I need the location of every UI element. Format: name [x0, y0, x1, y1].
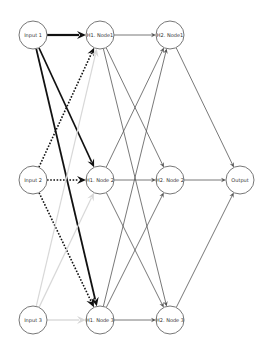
node-h1n3: H1. Node 3: [86, 306, 114, 334]
edge-h2n1-to-out: [176, 48, 234, 168]
edge-line: [39, 53, 92, 167]
arrowhead-icon: [77, 176, 86, 184]
edge-line: [106, 193, 162, 305]
node-h2n3: H2. Node 3: [156, 306, 184, 334]
node-h2n2: H2. Node 2: [156, 166, 184, 194]
edge-in3-to-h1n3: [47, 316, 86, 324]
edges-layer: [36, 31, 234, 324]
edge-h2n2-to-out: [184, 178, 226, 183]
node-in2: Input 2: [19, 166, 47, 194]
node-label: H1. Node1: [87, 32, 113, 38]
node-label: H2. Node1: [157, 32, 183, 38]
edge-line: [106, 50, 163, 167]
edge-in3-to-h1n2: [39, 193, 94, 308]
edge-line: [106, 195, 162, 307]
node-label: H1. Node 3: [86, 317, 114, 323]
node-label: Input 2: [24, 177, 42, 184]
edge-line: [106, 48, 163, 165]
node-out: Output: [226, 166, 254, 194]
edge-line: [176, 48, 233, 165]
node-h1n2: H1. Node 2: [86, 166, 114, 194]
node-in1: Input 1: [19, 21, 47, 49]
node-label: H1. Node 2: [86, 177, 114, 183]
edge-line: [176, 195, 232, 307]
node-label: Output: [231, 177, 248, 184]
arrowhead-icon: [86, 298, 94, 308]
edge-in1-to-h1n1: [47, 31, 86, 39]
node-in3: Input 3: [19, 306, 47, 334]
node-label: Input 1: [24, 32, 42, 39]
neural-network-diagram: Input 1Input 2Input 3H1. Node1H1. Node 2…: [0, 0, 269, 361]
node-label: Input 3: [24, 317, 42, 324]
edge-h1n3-to-h2n3: [114, 318, 156, 323]
edge-h1n1-to-h2n1: [114, 33, 156, 38]
node-h1n1: H1. Node1: [86, 21, 114, 49]
node-label: H2. Node 2: [156, 177, 184, 183]
edge-h2n3-to-out: [176, 193, 233, 308]
arrowhead-icon: [88, 48, 95, 57]
nodes-layer: Input 1Input 2Input 3H1. Node1H1. Node 2…: [19, 21, 254, 334]
node-h2n1: H2. Node1: [156, 21, 184, 49]
node-label: H2. Node 3: [156, 317, 184, 323]
